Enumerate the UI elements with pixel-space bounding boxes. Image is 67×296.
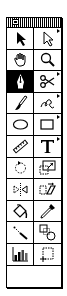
scissors-tool[interactable] (34, 71, 61, 93)
oval-tool[interactable] (7, 114, 34, 136)
hand-icon (12, 51, 29, 68)
paint-bucket-icon (12, 203, 29, 220)
zoom-tool[interactable] (34, 50, 61, 72)
reflect-icon (12, 181, 29, 198)
bar-graph-icon (12, 246, 29, 263)
measure-tool[interactable] (7, 136, 34, 158)
magnifier-icon (39, 51, 56, 68)
shape-blend-tool[interactable] (34, 222, 61, 244)
blend-line-icon (12, 224, 29, 241)
eyedropper-tool[interactable] (34, 201, 61, 223)
submenu-triangle-icon (57, 29, 60, 33)
reflect-tool[interactable] (7, 179, 34, 201)
shear-icon (39, 181, 56, 198)
page-tool[interactable] (34, 244, 61, 266)
brush-icon (12, 95, 29, 112)
scale-icon (39, 159, 56, 176)
freehand-squiggle-icon (39, 95, 56, 112)
submenu-triangle-icon (57, 115, 60, 119)
arrow-hollow-icon (39, 30, 56, 47)
type-tool[interactable] (34, 136, 61, 158)
pen-tool[interactable] (7, 71, 34, 93)
close-box-icon[interactable] (12, 19, 19, 25)
submenu-triangle-icon (57, 72, 60, 76)
eyedropper-icon (39, 203, 56, 220)
tool-grid (7, 28, 61, 266)
arrow-filled-icon (12, 30, 29, 47)
direct-selection-tool[interactable] (34, 28, 61, 50)
rotate-icon (12, 159, 29, 176)
shear-tool[interactable] (34, 179, 61, 201)
rotate-tool[interactable] (7, 158, 34, 180)
toolbox-palette (6, 17, 62, 288)
palette-title-bar[interactable] (7, 18, 61, 28)
pen-nib-icon (12, 73, 29, 90)
graph-tool[interactable] (7, 244, 34, 266)
submenu-triangle-icon (57, 94, 60, 98)
ruler-icon (12, 138, 29, 155)
page-crop-icon (39, 246, 56, 263)
paint-bucket-tool[interactable] (7, 201, 34, 223)
brush-tool[interactable] (7, 93, 34, 115)
freehand-tool[interactable] (34, 93, 61, 115)
type-t-icon (39, 138, 56, 155)
rectangle-icon (39, 116, 56, 133)
ellipse-icon (12, 116, 29, 133)
scissors-icon (39, 73, 56, 90)
square-circle-blend-icon (39, 224, 56, 241)
rectangle-tool[interactable] (34, 114, 61, 136)
blend-tool[interactable] (7, 222, 34, 244)
scale-tool[interactable] (34, 158, 61, 180)
selection-tool[interactable] (7, 28, 34, 50)
hand-tool[interactable] (7, 50, 34, 72)
submenu-triangle-icon (57, 137, 60, 141)
